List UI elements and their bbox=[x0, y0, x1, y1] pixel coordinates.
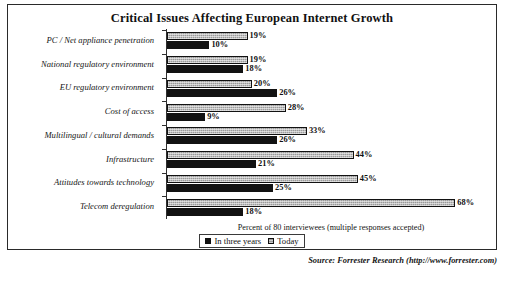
bar-group: 19%18% bbox=[167, 56, 492, 73]
source-note: Source: Forrester Research (http://www.f… bbox=[0, 256, 497, 265]
legend-item-in-three-years: In three years bbox=[205, 236, 261, 246]
chart-frame: Critical Issues Affecting European Inter… bbox=[7, 4, 497, 250]
axis-tick bbox=[162, 173, 166, 174]
bar-group: 45%25% bbox=[167, 175, 492, 192]
bar-value-label: 26% bbox=[279, 134, 296, 145]
bar-future bbox=[167, 56, 248, 64]
bar-today bbox=[167, 208, 243, 216]
bar-today bbox=[167, 184, 273, 192]
legend: In three years Today bbox=[8, 234, 496, 248]
axis-tick bbox=[162, 125, 166, 126]
bar-today bbox=[167, 160, 256, 168]
bar-value-label: 19% bbox=[250, 30, 267, 41]
axis-tick bbox=[162, 196, 166, 197]
category-label: Multilingual / cultural demands bbox=[44, 131, 154, 140]
category-label: Attitudes towards technology bbox=[54, 178, 154, 187]
bar-value-label: 18% bbox=[245, 63, 262, 74]
category-label: PC / Net appliance penetration bbox=[47, 36, 154, 45]
axis-tick bbox=[162, 78, 166, 79]
legend-swatch-in-three-years bbox=[205, 238, 211, 244]
legend-label-in-three-years: In three years bbox=[214, 236, 261, 246]
bar-value-label: 21% bbox=[258, 158, 275, 169]
bar-value-label: 44% bbox=[356, 149, 373, 160]
legend-swatch-today bbox=[268, 238, 274, 244]
bar-today bbox=[167, 113, 205, 121]
bar-future bbox=[167, 199, 455, 207]
bar-today bbox=[167, 41, 209, 49]
bar-value-label: 18% bbox=[245, 206, 262, 217]
axis-tick bbox=[162, 101, 166, 102]
legend-label-today: Today bbox=[277, 236, 298, 246]
legend-item-today: Today bbox=[268, 236, 298, 246]
bar-future bbox=[167, 32, 248, 40]
bar-future bbox=[167, 104, 286, 112]
category-label: Cost of access bbox=[105, 107, 154, 116]
bar-value-label: 26% bbox=[279, 87, 296, 98]
bar-value-label: 28% bbox=[288, 102, 305, 113]
bar-group: 44%21% bbox=[167, 151, 492, 168]
category-label: Telecom deregulation bbox=[80, 202, 154, 211]
plot-area: PC / Net appliance penetrationNational r… bbox=[8, 29, 496, 219]
bars-container: 19%10%19%18%20%26%28%9%33%26%44%21%45%25… bbox=[167, 29, 492, 219]
bar-value-label: 25% bbox=[275, 182, 292, 193]
bar-group: 33%26% bbox=[167, 127, 492, 144]
bar-value-label: 45% bbox=[360, 173, 377, 184]
bar-today bbox=[167, 89, 277, 97]
bar-group: 28%9% bbox=[167, 104, 492, 121]
bar-today bbox=[167, 65, 243, 73]
category-label: National regulatory environment bbox=[41, 60, 154, 69]
legend-box: In three years Today bbox=[199, 234, 304, 248]
axis-tick bbox=[162, 54, 166, 55]
bar-value-label: 10% bbox=[211, 39, 228, 50]
axis-tick bbox=[162, 149, 166, 150]
category-label: EU regulatory environment bbox=[60, 83, 154, 92]
chart-title: Critical Issues Affecting European Inter… bbox=[8, 11, 496, 26]
bar-future bbox=[167, 175, 358, 183]
axis-caption: Percent of 80 interviewees (multiple res… bbox=[166, 223, 496, 232]
bar-value-label: 20% bbox=[254, 78, 271, 89]
bar-today bbox=[167, 136, 277, 144]
bar-value-label: 9% bbox=[207, 111, 220, 122]
bar-group: 19%10% bbox=[167, 32, 492, 49]
bar-future bbox=[167, 80, 252, 88]
bar-group: 20%26% bbox=[167, 80, 492, 97]
bar-value-label: 68% bbox=[457, 197, 474, 208]
category-axis-labels: PC / Net appliance penetrationNational r… bbox=[8, 29, 160, 219]
category-label: Infrastructure bbox=[106, 155, 154, 164]
bar-value-label: 33% bbox=[309, 125, 326, 136]
bar-group: 68%18% bbox=[167, 199, 492, 216]
axis-tick bbox=[162, 30, 166, 31]
